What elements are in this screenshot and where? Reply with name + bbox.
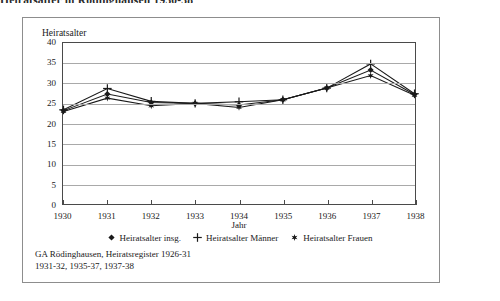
x-tick-mark (107, 200, 108, 205)
x-tick-mark (63, 200, 64, 205)
gridline (63, 83, 415, 84)
x-tick-mark (328, 200, 329, 205)
source-note: GA Rödinghausen, Heiratsregister 1926-31… (35, 249, 191, 272)
x-tick-mark (151, 200, 152, 205)
y-tick-label: 0 (52, 200, 57, 210)
legend-item[interactable]: Heiratsalter Frauen (289, 232, 372, 243)
diamond-marker-icon (108, 234, 114, 240)
legend-label: Heiratsalter Männer (206, 233, 278, 243)
x-tick-mark (195, 200, 196, 205)
figure-frame: Heiratsalter 0510152025303540 1930193119… (22, 17, 440, 283)
x-tick-mark (240, 200, 241, 205)
plus-marker-icon (103, 84, 112, 92)
gridline (63, 63, 415, 64)
star-marker-icon (368, 72, 374, 79)
chart-area: Heiratsalter 0510152025303540 1930193119… (23, 18, 439, 282)
gridline (63, 124, 415, 125)
y-tick-label: 5 (52, 180, 57, 190)
y-tick-label: 25 (47, 98, 56, 108)
gridline (63, 165, 415, 166)
chart-legend: Heiratsalter insg.Heiratsalter MännerHei… (62, 232, 416, 243)
diamond-marker-icon (106, 232, 117, 243)
y-tick-label: 15 (47, 139, 56, 149)
gridline (63, 104, 415, 105)
plus-marker-icon (193, 233, 202, 242)
y-tick-label: 20 (47, 119, 56, 129)
gridline (63, 185, 415, 186)
plot-box (62, 42, 416, 205)
page-title: Heiratsalter in Rödinghausen 1930-38 (0, 0, 193, 3)
legend-item[interactable]: Heiratsalter insg. (106, 232, 181, 243)
star-marker-icon (292, 234, 298, 241)
x-axis-title: Jahr (62, 220, 416, 230)
plus-marker-icon (366, 60, 375, 68)
gridline (63, 144, 415, 145)
legend-item[interactable]: Heiratsalter Männer (192, 232, 278, 243)
y-tick-label: 35 (47, 57, 56, 67)
y-tick-label: 40 (47, 37, 56, 47)
x-tick-mark (284, 200, 285, 205)
x-tick-mark (372, 200, 373, 205)
x-tick-mark (416, 200, 417, 205)
legend-label: Heiratsalter insg. (120, 233, 181, 243)
plus-marker-icon (192, 232, 203, 243)
series-star (61, 72, 418, 115)
y-tick-label: 10 (47, 159, 56, 169)
legend-label: Heiratsalter Frauen (303, 233, 372, 243)
star-marker-icon (289, 232, 300, 243)
y-tick-label: 30 (47, 78, 56, 88)
